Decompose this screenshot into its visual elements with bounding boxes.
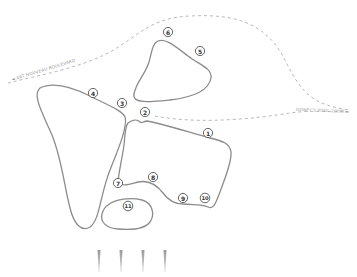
marker-1-label: 1 (206, 130, 210, 137)
spike-marker-4 (164, 250, 167, 272)
spike-marker-3 (142, 250, 145, 272)
marker-4[interactable]: 4 (88, 88, 97, 97)
marker-9[interactable]: 9 (178, 193, 187, 202)
marker-11-label: 11 (124, 203, 132, 209)
marker-7-label: 7 (116, 180, 120, 187)
marker-7[interactable]: 7 (113, 178, 122, 187)
marker-11[interactable]: 11 (123, 201, 133, 211)
marker-1[interactable]: 1 (203, 128, 212, 137)
marker-5-label: 5 (198, 48, 202, 55)
marker-2-label: 2 (143, 109, 147, 116)
spike-marker-1 (98, 250, 101, 272)
region-central[interactable] (118, 120, 231, 207)
spike-marker-2 (120, 250, 123, 272)
marker-2[interactable]: 2 (140, 107, 149, 116)
marker-3-label: 3 (120, 100, 124, 107)
marker-10-label: 10 (201, 195, 209, 201)
marker-5[interactable]: 5 (195, 46, 204, 55)
marker-8[interactable]: 8 (148, 172, 157, 181)
marker-8-label: 8 (151, 174, 155, 181)
marker-3[interactable]: 3 (117, 98, 126, 107)
route-label-art-nouveau: ◄ ART NOUVEAU BOULEVARD (11, 58, 76, 82)
marker-6[interactable]: 6 (163, 27, 172, 36)
marker-9-label: 9 (181, 195, 185, 202)
route-label-doneys-pool: DONEY'S POOL 200M ► (296, 107, 349, 114)
marker-4-label: 4 (91, 90, 95, 97)
site-map: ◄ ART NOUVEAU BOULEVARD DONEY'S POOL 200… (0, 0, 357, 277)
marker-6-label: 6 (166, 29, 170, 36)
marker-10[interactable]: 10 (200, 193, 210, 203)
